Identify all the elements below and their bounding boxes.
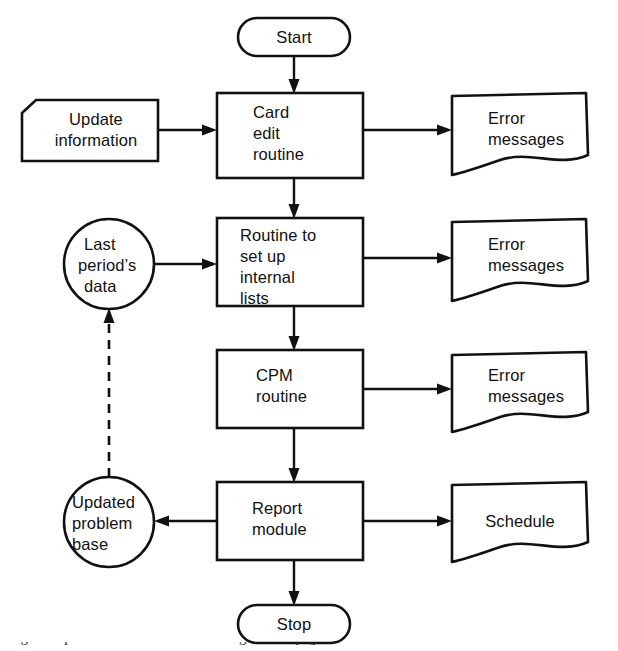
node-update-information[interactable]: Update information	[22, 100, 158, 161]
node-report-module-label-line-1: Report	[252, 499, 302, 517]
node-schedule-label: Schedule	[485, 512, 555, 530]
flowchart-canvas: Start Update information Card edit routi…	[0, 0, 618, 651]
node-routine-set-up-internal-lists-label-line-2: set up	[240, 247, 286, 265]
node-card-edit-routine[interactable]: Card edit routine	[217, 93, 363, 178]
node-last-periods-data-label-line-1: Last	[84, 235, 116, 253]
node-routine-set-up-internal-lists-label-line-1: Routine to	[240, 226, 316, 244]
figure-caption-clipped: Figure caption cut off at the bottom edg…	[0, 642, 618, 651]
node-stop-label: Stop	[277, 615, 311, 633]
node-routine-set-up-internal-lists[interactable]: Routine to set up internal lists	[217, 218, 363, 307]
node-error-messages-2-label-line-2: messages	[488, 256, 564, 274]
node-last-periods-data[interactable]: Last period’s data	[64, 219, 154, 309]
node-card-edit-routine-label-line-2: edit	[253, 124, 280, 142]
node-last-periods-data-label-line-3: data	[84, 277, 117, 295]
edge-report-module-to-stop	[289, 560, 300, 606]
node-update-information-label-line-1: Update	[69, 110, 123, 128]
node-updated-problem-base-label-line-1: Updated	[72, 493, 135, 511]
node-update-information-label-line-2: information	[55, 131, 138, 149]
node-error-messages-3-label-line-2: messages	[488, 387, 564, 405]
edge-routine-set-up-internal-lists-to-error-messages-2	[363, 253, 452, 264]
node-layer: Start Update information Card edit routi…	[22, 18, 588, 643]
node-error-messages-1-label-line-1: Error	[488, 109, 526, 127]
node-cpm-routine-label-line-1: CPM	[256, 366, 293, 384]
node-report-module[interactable]: Report module	[217, 482, 363, 560]
node-start[interactable]: Start	[238, 18, 350, 56]
node-updated-problem-base-label-line-2: problem	[72, 514, 132, 532]
figure-caption-text: Figure caption cut off at the bottom edg…	[8, 642, 612, 646]
node-start-label: Start	[276, 28, 312, 46]
edge-report-module-to-schedule	[363, 516, 452, 527]
edge-updated-problem-base-to-last-periods-data	[104, 308, 115, 477]
node-routine-set-up-internal-lists-label-line-4: lists	[240, 289, 269, 307]
node-error-messages-3-label-line-1: Error	[488, 366, 526, 384]
node-card-edit-routine-label-line-3: routine	[253, 145, 304, 163]
flowchart-diagram: Start Update information Card edit routi…	[0, 0, 618, 651]
node-cpm-routine[interactable]: CPM routine	[217, 350, 363, 428]
edge-routine-set-up-internal-lists-to-cpm-routine	[289, 306, 300, 351]
edge-card-edit-routine-to-error-messages-1	[363, 125, 452, 136]
node-routine-set-up-internal-lists-label-line-3: internal	[240, 268, 295, 286]
node-cpm-routine-label-line-2: routine	[256, 387, 307, 405]
edge-cpm-routine-to-error-messages-3	[363, 384, 452, 395]
node-stop[interactable]: Stop	[238, 605, 350, 643]
node-error-messages-1-label-line-2: messages	[488, 130, 564, 148]
node-report-module-label-line-2: module	[252, 520, 307, 538]
edge-start-to-card-edit-routine	[289, 56, 300, 94]
node-updated-problem-base-label-line-3: base	[72, 535, 108, 553]
node-error-messages-1[interactable]: Error messages	[452, 93, 588, 175]
node-error-messages-2-label-line-1: Error	[488, 235, 526, 253]
node-schedule[interactable]: Schedule	[452, 482, 588, 562]
node-updated-problem-base[interactable]: Updated problem base	[64, 477, 154, 567]
edge-card-edit-routine-to-routine-set-up-internal-lists	[289, 178, 300, 219]
node-error-messages-2[interactable]: Error messages	[452, 219, 588, 301]
edge-last-periods-data-to-routine-set-up-internal-lists	[154, 259, 217, 270]
edge-report-module-to-updated-problem-base	[154, 516, 217, 527]
node-error-messages-3[interactable]: Error messages	[452, 352, 588, 432]
node-last-periods-data-label-line-2: period’s	[78, 256, 136, 274]
edge-update-information-to-card-edit-routine	[158, 125, 217, 136]
node-card-edit-routine-label-line-1: Card	[253, 103, 289, 121]
edge-cpm-routine-to-report-module	[289, 428, 300, 483]
